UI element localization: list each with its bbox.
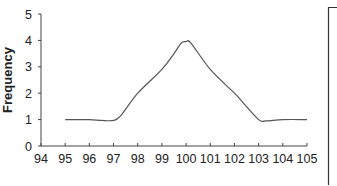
y-tick-label: 2	[25, 87, 32, 101]
y-tick-label: 4	[25, 34, 32, 48]
y-tick-label: 3	[25, 60, 32, 74]
x-axis: 949596979899100101102103104105	[34, 143, 317, 166]
frequency-line-chart: 012345 949596979899100101102103104105 Fr…	[0, 0, 337, 185]
x-tick-label: 94	[34, 152, 48, 166]
x-tick-label: 103	[248, 152, 269, 166]
x-tick-label: 105	[297, 152, 318, 166]
y-tick-label: 0	[25, 140, 32, 154]
x-tick-label: 99	[155, 152, 169, 166]
y-tick-label: 1	[25, 113, 32, 127]
x-tick-label: 102	[224, 152, 245, 166]
x-tick-label: 95	[58, 152, 72, 166]
data-series	[65, 41, 307, 122]
x-tick-label: 98	[131, 152, 145, 166]
right-border-bracket	[329, 8, 337, 186]
x-tick-label: 97	[107, 152, 121, 166]
frequency-line	[65, 41, 307, 122]
y-tick-label: 5	[25, 8, 32, 22]
x-tick-label: 101	[200, 152, 221, 166]
x-tick-label: 96	[82, 152, 96, 166]
x-tick-label: 104	[272, 152, 293, 166]
x-tick-label: 100	[176, 152, 197, 166]
y-axis: 012345	[25, 8, 41, 154]
y-axis-label: Frequency	[0, 46, 15, 113]
